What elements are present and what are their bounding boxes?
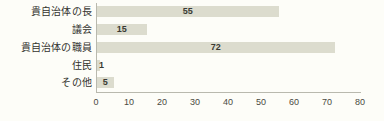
- bar: 55: [97, 6, 279, 17]
- x-tick-label: 80: [348, 96, 372, 108]
- x-tick-label: 40: [216, 96, 240, 108]
- bar-value-label: 5: [97, 77, 114, 88]
- bar-value-label: 1: [99, 60, 104, 71]
- bar: 15: [97, 24, 147, 35]
- category-label: 議会: [0, 24, 92, 36]
- x-tick-label: 60: [282, 96, 306, 108]
- category-label: 住民: [0, 60, 92, 72]
- bar-track: 72: [97, 42, 335, 53]
- bar-row: 貴自治体の長 55: [0, 3, 384, 21]
- x-tick-label: 0: [84, 96, 108, 108]
- bar-row: その他 5: [0, 74, 384, 92]
- x-tick-label: 50: [249, 96, 273, 108]
- x-tick-label: 30: [183, 96, 207, 108]
- bar-chart: 貴自治体の長 55 議会 15 貴自治体の職員 72: [0, 0, 384, 121]
- bar-value-label: 72: [97, 42, 335, 53]
- x-tick-label: 20: [150, 96, 174, 108]
- bar-row: 貴自治体の職員 72: [0, 39, 384, 57]
- category-label: 貴自治体の長: [0, 6, 92, 18]
- plot-area: 貴自治体の長 55 議会 15 貴自治体の職員 72: [0, 0, 384, 121]
- bar-track: 1: [97, 60, 100, 71]
- x-axis-line: [96, 92, 361, 93]
- bar-row: 住民 1: [0, 57, 384, 75]
- bar-row: 議会 15: [0, 21, 384, 39]
- bar-track: 55: [97, 6, 279, 17]
- bar-value-label: 15: [97, 24, 147, 35]
- bar-track: 15: [97, 24, 147, 35]
- x-tick-label: 70: [315, 96, 339, 108]
- bar-value-label: 55: [97, 6, 279, 17]
- bar: 1: [97, 60, 100, 71]
- bar: 5: [97, 77, 114, 88]
- category-label: 貴自治体の職員: [0, 42, 92, 54]
- x-tick-label: 10: [117, 96, 141, 108]
- bar-track: 5: [97, 77, 114, 88]
- bar: 72: [97, 42, 335, 53]
- category-label: その他: [0, 77, 92, 89]
